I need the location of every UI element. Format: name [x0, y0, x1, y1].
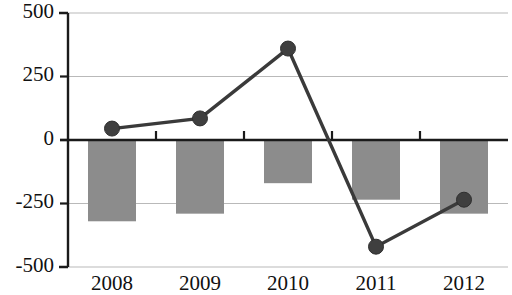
- y-tick-label--250: -250: [16, 189, 55, 213]
- marker-2011: [369, 239, 384, 254]
- marker-2009: [193, 111, 208, 126]
- y-tick-label-0: 0: [44, 126, 55, 150]
- y-tick-label--500: -500: [16, 253, 55, 277]
- x-axis-ticks: [156, 131, 420, 140]
- marker-2010: [281, 41, 296, 56]
- x-tick-label-2008: 2008: [91, 271, 133, 295]
- bar-2008: [88, 140, 136, 221]
- line-bar-combo-chart: 5002500-250-500 20082009201020112012: [0, 0, 512, 295]
- bar-series: [88, 140, 488, 221]
- y-tick-label-500: 500: [23, 0, 55, 23]
- x-tick-label-2010: 2010: [267, 271, 309, 295]
- y-axis: [59, 13, 68, 267]
- bar-2011: [352, 140, 400, 200]
- x-tick-label-2012: 2012: [443, 271, 485, 295]
- bar-2009: [176, 140, 224, 214]
- marker-2012: [457, 192, 472, 207]
- y-axis-tick-labels: 5002500-250-500: [16, 0, 55, 277]
- x-axis-tick-labels: 20082009201020112012: [91, 271, 485, 295]
- x-tick-label-2011: 2011: [355, 271, 396, 295]
- x-tick-label-2009: 2009: [179, 271, 221, 295]
- marker-2008: [105, 121, 120, 136]
- y-tick-label-250: 250: [23, 62, 55, 86]
- chart-container: 5002500-250-500 20082009201020112012: [0, 0, 512, 295]
- bar-2010: [264, 140, 312, 183]
